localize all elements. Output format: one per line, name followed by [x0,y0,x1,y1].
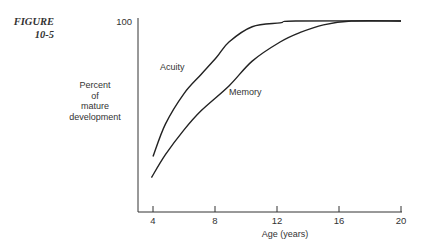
x-tick-label: 12 [272,215,283,226]
memory-label: Memory [229,87,262,97]
memory-curve [151,21,401,178]
chart-plot: 100 48121620 Acuity Memory [0,0,421,244]
acuity-curve [153,21,401,157]
x-tick-label: 4 [150,215,155,226]
x-ticks: 48121620 [150,206,406,226]
x-tick-label: 16 [334,215,345,226]
y-tick-label-100: 100 [116,16,132,27]
x-tick-label: 8 [212,215,217,226]
x-tick-label: 20 [396,215,407,226]
acuity-label: Acuity [160,62,185,72]
